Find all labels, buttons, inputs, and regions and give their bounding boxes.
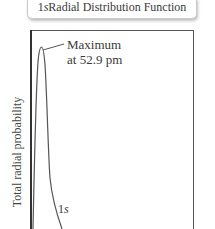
curve-label-orbital: s	[64, 202, 69, 216]
curve-label: 1s	[58, 202, 69, 217]
y-axis-label: Total radial probability	[10, 97, 25, 207]
annotation-line2: at 52.9 pm	[67, 52, 122, 67]
annotation-line1: Maximum	[67, 37, 122, 52]
maximum-annotation: Maximum at 52.9 pm	[67, 37, 122, 67]
annotation-leader-line	[43, 44, 64, 50]
plot-area	[0, 0, 215, 229]
